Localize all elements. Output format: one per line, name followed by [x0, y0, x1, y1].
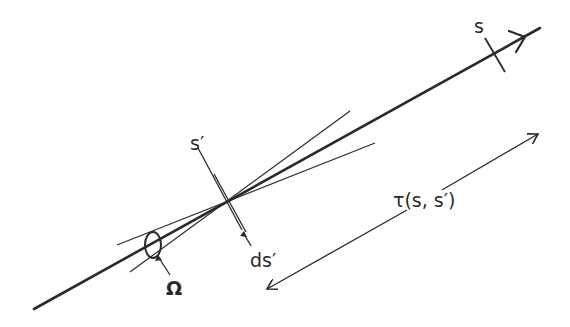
ds-prime-element: [214, 174, 246, 232]
cone-line-lower: [117, 143, 375, 245]
cone-line-upper: [130, 111, 350, 272]
tau-arrow-lower: [267, 210, 407, 289]
label-omega: Ω: [166, 277, 182, 299]
omega-pointer: [159, 258, 170, 275]
label-tau: τ(s, s′): [393, 189, 455, 211]
label-ds-prime: ds′: [250, 249, 276, 271]
line-of-sight: [34, 28, 540, 309]
label-s: s: [474, 15, 484, 37]
label-s-prime: s′: [190, 132, 204, 154]
s-tick: [485, 38, 505, 72]
ray-diagram: s s′ ds′ Ω τ(s, s′): [0, 0, 570, 327]
tau-arrow-upper: [442, 134, 538, 190]
